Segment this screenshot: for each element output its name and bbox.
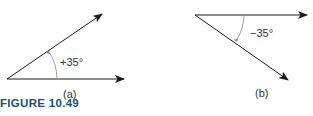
- panel-b: −35° (b): [195, 15, 307, 99]
- angle-arc-b: [236, 15, 244, 41]
- rotated-vector-a: [7, 14, 102, 79]
- angle-label-b: −35°: [250, 27, 273, 39]
- figure-caption: FIGURE 10.49: [0, 97, 79, 109]
- arc-arrowhead-b: [234, 39, 239, 42]
- angle-arc-a: [49, 51, 58, 79]
- rotated-vector-b: [195, 15, 288, 80]
- angle-label-a: +35°: [60, 56, 83, 68]
- panel-a: +35° (a): [7, 14, 124, 100]
- panel-label-b: (b): [255, 87, 268, 99]
